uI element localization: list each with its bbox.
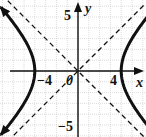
tick-label-origin: 0 [66, 74, 73, 88]
x-axis-label: x [136, 76, 143, 90]
hyperbola-graph [0, 0, 146, 137]
tick-label-x-neg4: −4 [37, 74, 52, 88]
tick-label-y-neg5: −5 [58, 120, 73, 134]
asymptotes [8, 1, 146, 137]
tick-label-x-4: 4 [110, 74, 117, 88]
tick-label-y-5: 5 [64, 9, 71, 23]
y-axis-label: y [85, 2, 91, 16]
